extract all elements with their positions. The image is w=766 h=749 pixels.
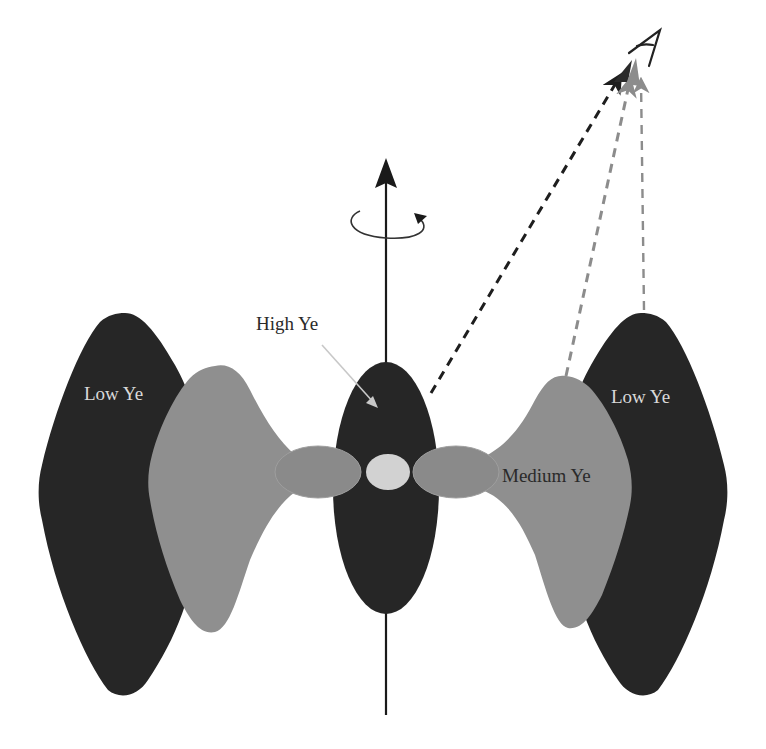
observer-arrowheads-icon	[614, 58, 640, 86]
low-ye-left-label: Low Ye	[84, 384, 143, 403]
diagram-canvas: High Ye Low Ye Low Ye Medium Ye	[0, 0, 766, 749]
torus-right	[413, 446, 499, 498]
medium-ye-label: Medium Ye	[502, 466, 591, 485]
rotation-indicator-icon	[351, 211, 427, 238]
central-remnant	[366, 454, 410, 490]
sight-line-polar	[431, 76, 620, 393]
torus-left	[275, 446, 361, 498]
observer-label-icon	[629, 30, 660, 66]
high-ye-label: High Ye	[256, 314, 318, 333]
diagram-svg	[0, 0, 766, 749]
low-ye-right-label: Low Ye	[611, 387, 670, 406]
sight-line-dynamical	[641, 80, 644, 310]
